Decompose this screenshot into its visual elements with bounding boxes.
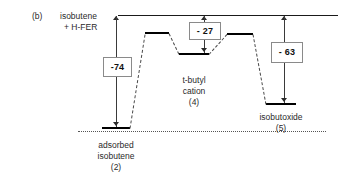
arrowhead-e74-bottom: [113, 122, 119, 126]
label-adsorbed-isobutene-line2: isobutene: [88, 151, 144, 162]
connector-2-to-ts1: [130, 34, 146, 128]
value-box-e74: -74: [103, 57, 132, 77]
level-adsorbed-isobutene: [102, 127, 130, 129]
reaction-energy-diagram: (b) isobutene + H-FER -74 - 27 - 63 adso…: [0, 0, 345, 180]
arrowhead-e27-bottom: [201, 48, 207, 52]
level-isobutoxide: [266, 103, 296, 105]
label-tbutyl-cation-number: (4): [166, 97, 222, 108]
reference-level-line: [118, 15, 338, 16]
label-adsorbed-isobutene-line1: adsorbed: [88, 140, 144, 151]
level-transition-state-1: [145, 32, 169, 34]
level-tbutyl-cation: [179, 53, 209, 55]
value-box-e63: - 63: [271, 42, 303, 63]
label-isobutoxide-line1: isobutoxide: [249, 112, 313, 123]
label-tbutyl-cation-line1: t-butyl: [166, 75, 222, 86]
top-level-label-line2: + H-FER: [64, 22, 97, 33]
connector-ts2-to-5: [253, 34, 267, 104]
level-transition-state-2: [227, 33, 253, 35]
connector-ts1-to-4: [169, 33, 180, 54]
panel-tag: (b): [32, 11, 42, 21]
value-box-e27: - 27: [189, 22, 221, 40]
label-adsorbed-isobutene-number: (2): [88, 162, 144, 173]
label-isobutoxide-number: (5): [249, 123, 313, 134]
label-tbutyl-cation-line2: cation: [166, 86, 222, 97]
top-level-label-line1: isobutene: [60, 11, 97, 22]
arrowhead-e63-bottom: [281, 98, 287, 102]
